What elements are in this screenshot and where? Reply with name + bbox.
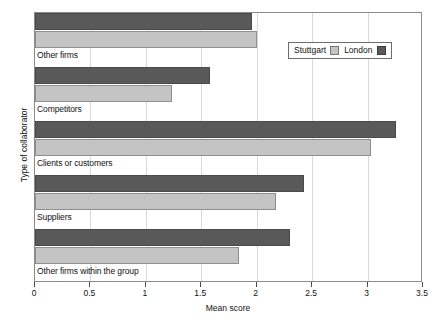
category-label: Competitors bbox=[37, 104, 82, 115]
x-tick-label: 0.5 bbox=[84, 288, 96, 298]
bar-group: Other firms within the group bbox=[35, 229, 421, 282]
legend-label-stuttgart: Stuttgart bbox=[294, 45, 326, 55]
bar-group: Clients or customers bbox=[35, 121, 421, 175]
chart-legend: Stuttgart London bbox=[288, 42, 392, 59]
bar-london bbox=[35, 67, 210, 84]
category-label: Other firms within the group bbox=[37, 266, 139, 277]
x-axis-title: Mean score bbox=[34, 303, 422, 313]
x-tick bbox=[256, 282, 257, 287]
bar-london bbox=[35, 121, 396, 138]
x-tick bbox=[311, 282, 312, 287]
bar-london bbox=[35, 175, 304, 192]
bar-stuttgart bbox=[35, 193, 276, 210]
bar-group: Suppliers bbox=[35, 175, 421, 229]
category-label: Other firms bbox=[37, 50, 78, 61]
x-tick bbox=[422, 282, 423, 287]
bar-london bbox=[35, 13, 252, 30]
bar-chart: Other firmsCompetitorsClients or custome… bbox=[0, 0, 442, 326]
x-tick bbox=[89, 282, 90, 287]
legend-item-london: London bbox=[344, 45, 385, 55]
stuttgart-swatch-icon bbox=[330, 46, 339, 55]
legend-item-stuttgart: Stuttgart bbox=[294, 45, 339, 55]
bar-group: Competitors bbox=[35, 67, 421, 121]
bar-stuttgart bbox=[35, 31, 257, 48]
x-tick bbox=[200, 282, 201, 287]
x-axis-tick-labels: 00.511.522.533.5 bbox=[0, 288, 442, 300]
y-axis-title: Type of collaborator bbox=[19, 65, 29, 225]
bar-stuttgart bbox=[35, 139, 371, 156]
x-tick-label: 1 bbox=[142, 288, 147, 298]
bar-london bbox=[35, 229, 290, 246]
x-tick-label: 1.5 bbox=[194, 288, 206, 298]
x-tick-label: 0 bbox=[32, 288, 37, 298]
category-label: Suppliers bbox=[37, 212, 72, 223]
category-label: Clients or customers bbox=[37, 158, 112, 169]
x-tick bbox=[145, 282, 146, 287]
london-swatch-icon bbox=[377, 46, 386, 55]
bar-stuttgart bbox=[35, 247, 239, 264]
plot-area: Other firmsCompetitorsClients or custome… bbox=[34, 12, 422, 282]
x-tick bbox=[34, 282, 35, 287]
x-tick-label: 3 bbox=[364, 288, 369, 298]
x-tick bbox=[367, 282, 368, 287]
legend-label-london: London bbox=[344, 45, 372, 55]
x-tick-label: 3.5 bbox=[416, 288, 428, 298]
bar-stuttgart bbox=[35, 85, 172, 102]
x-tick-label: 2.5 bbox=[305, 288, 317, 298]
x-tick-label: 2 bbox=[253, 288, 258, 298]
